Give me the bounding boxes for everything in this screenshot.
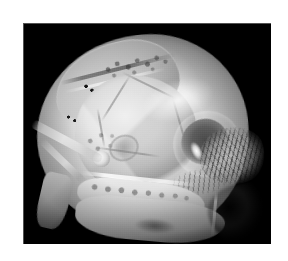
molar-tooth-row — [86, 178, 191, 208]
vault-facet-seam — [122, 72, 179, 101]
tooth-enamel-ridge — [81, 171, 199, 187]
cut-plane-seam — [211, 191, 218, 237]
parietal-suture — [64, 67, 166, 93]
dorsal-porous-patch — [95, 43, 178, 89]
figure-page — [0, 0, 288, 261]
marker-dots-lower — [62, 109, 92, 134]
figure-image-panel — [23, 23, 271, 244]
parietal-ridge — [60, 53, 175, 85]
palate-notch — [134, 217, 175, 234]
cavity-ring — [105, 130, 143, 166]
cranium-mass — [27, 24, 259, 244]
vault-facet-seam — [171, 97, 186, 144]
marker-dots-upper — [80, 79, 113, 107]
parietal-plate — [46, 30, 185, 130]
orbit-rim — [164, 101, 250, 186]
vault-highlight — [135, 65, 224, 140]
cheek-porous-patch — [79, 122, 128, 167]
cranial-vault — [71, 71, 201, 197]
orbit-socket — [174, 112, 236, 173]
occipital-shadow — [203, 179, 271, 244]
zygomatic-arch — [30, 119, 103, 164]
vault-facet-seam — [97, 108, 106, 148]
vault-facet-seam — [95, 146, 161, 157]
specimen-render — [23, 23, 271, 244]
zygomatic-arch-lower — [39, 138, 88, 186]
orbit-specular-highlight — [187, 140, 206, 163]
palate-shelf — [73, 193, 226, 244]
trabecular-bundle — [193, 120, 271, 192]
foramen-bubble — [93, 151, 110, 167]
vault-facet-seam — [101, 75, 131, 122]
maxilla-band — [75, 173, 206, 222]
trabecular-fan — [169, 165, 230, 199]
angular-blade — [33, 170, 75, 231]
